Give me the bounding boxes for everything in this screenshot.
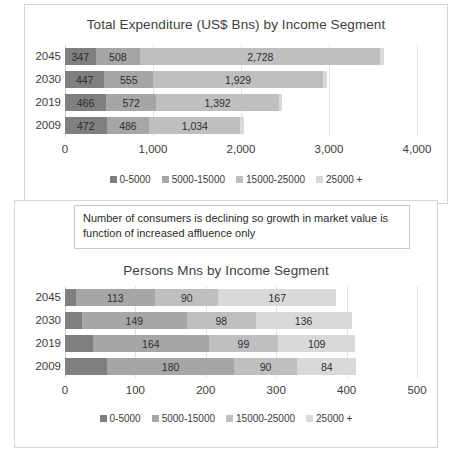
legend-swatch-icon (306, 415, 313, 422)
bar-segment-3: 90 (234, 358, 297, 375)
legend-label: 25000 + (326, 174, 362, 185)
bar-segment-2: 572 (106, 94, 156, 111)
bar-row: 16499109 (65, 335, 355, 352)
legend-item-2[interactable]: 5000-15000 (162, 174, 225, 185)
legend-label: 15000-25000 (246, 174, 305, 185)
legend-label: 5000-15000 (162, 413, 215, 424)
bar-segment-4 (279, 94, 283, 111)
persons-bar-rows: 1139016714998136164991091809084 (65, 286, 417, 378)
legend-swatch-icon (100, 415, 107, 422)
x-tick-label: 100 (126, 384, 145, 396)
category-label-2045: 2045 (19, 289, 61, 306)
bar-value-label: 347 (72, 51, 90, 63)
bar-value-label: 1,034 (182, 120, 208, 132)
legend-item-3[interactable]: 15000-25000 (226, 413, 295, 424)
legend-label: 15000-25000 (236, 413, 295, 424)
bar-value-label: 180 (162, 361, 180, 373)
x-tick-label: 500 (407, 384, 426, 396)
bar-value-label: 98 (215, 315, 227, 327)
expenditure-bar-rows: 3475082,7284475551,9294665721,3924724861… (65, 45, 417, 137)
bar-segment-4 (380, 48, 383, 65)
bar-segment-4: 84 (297, 358, 356, 375)
bar-value-label: 99 (238, 338, 250, 350)
legend-label: 25000 + (316, 413, 352, 424)
legend-label: 5000-15000 (172, 174, 225, 185)
bar-value-label: 90 (260, 361, 272, 373)
x-tick-label: 300 (267, 384, 286, 396)
bar-segment-3: 2,728 (140, 48, 380, 65)
category-label-2009: 2009 (19, 117, 61, 134)
bar-segment-2: 149 (82, 312, 187, 329)
category-label-2009: 2009 (19, 358, 61, 375)
legend-swatch-icon (316, 176, 323, 183)
x-tick-label: 0 (62, 384, 68, 396)
expenditure-chart-title: Total Expenditure (US$ Bns) by Income Se… (25, 17, 447, 32)
bar-segment-1 (65, 289, 76, 306)
bar-segment-4 (323, 71, 327, 88)
bar-segment-3: 98 (187, 312, 256, 329)
bar-row: 4724861,034 (65, 117, 244, 134)
persons-chart-title: Persons Mns by Income Segment (15, 263, 437, 278)
bar-segment-2: 180 (107, 358, 234, 375)
bar-value-label: 1,392 (204, 97, 230, 109)
bar-row: 14998136 (65, 312, 352, 329)
bar-value-label: 113 (107, 292, 124, 304)
x-tick-label: 400 (337, 384, 356, 396)
legend-label: 0-5000 (110, 413, 141, 424)
legend-swatch-icon (110, 176, 117, 183)
bar-segment-1: 466 (65, 94, 106, 111)
expenditure-plot-area: 3475082,7284475551,9294665721,3924724861… (65, 45, 417, 137)
category-label-2045: 2045 (19, 48, 61, 65)
legend-item-1[interactable]: 0-5000 (110, 174, 151, 185)
bar-segment-4: 136 (256, 312, 352, 329)
bar-row: 4475551,929 (65, 71, 327, 88)
bar-value-label: 84 (321, 361, 333, 373)
bar-value-label: 466 (77, 97, 95, 109)
bar-segment-1: 472 (65, 117, 107, 134)
bar-segment-1: 347 (65, 48, 96, 65)
legend-swatch-icon (162, 176, 169, 183)
category-label-2030: 2030 (19, 312, 61, 329)
category-label-2019: 2019 (19, 94, 61, 111)
bar-value-label: 149 (126, 315, 144, 327)
x-tick-label: 0 (62, 143, 68, 155)
bar-value-label: 167 (268, 292, 286, 304)
bar-segment-1 (65, 358, 107, 375)
bar-value-label: 2,728 (247, 51, 273, 63)
bar-value-label: 136 (295, 315, 313, 327)
legend-swatch-icon (152, 415, 159, 422)
bar-segment-2: 555 (104, 71, 153, 88)
bar-row: 1809084 (65, 358, 356, 375)
legend-swatch-icon (236, 176, 243, 183)
legend-item-2[interactable]: 5000-15000 (152, 413, 215, 424)
expenditure-chart-panel: Total Expenditure (US$ Bns) by Income Se… (24, 4, 448, 204)
bar-segment-3: 90 (155, 289, 218, 306)
gridline (417, 45, 418, 137)
gridline (417, 286, 418, 378)
bar-segment-4: 167 (218, 289, 336, 306)
x-tick-label: 1,000 (139, 143, 168, 155)
legend-item-4[interactable]: 25000 + (306, 413, 352, 424)
bar-value-label: 508 (109, 51, 127, 63)
x-tick-label: 200 (196, 384, 215, 396)
bar-value-label: 90 (181, 292, 193, 304)
bar-value-label: 572 (122, 97, 140, 109)
bar-segment-3: 99 (209, 335, 279, 352)
x-tick-label: 4,000 (403, 143, 432, 155)
legend-item-3[interactable]: 15000-25000 (236, 174, 305, 185)
callout-text: Number of consumers is declining so grow… (83, 212, 388, 239)
bar-segment-3: 1,034 (149, 117, 240, 134)
bar-segment-2: 508 (96, 48, 141, 65)
bar-value-label: 1,929 (225, 74, 251, 86)
x-tick-label: 2,000 (227, 143, 256, 155)
bar-segment-3: 1,392 (156, 94, 278, 111)
bar-segment-4: 109 (278, 335, 355, 352)
bar-segment-1 (65, 335, 93, 352)
bar-value-label: 109 (308, 338, 326, 350)
bar-value-label: 164 (142, 338, 160, 350)
bar-row: 3475082,728 (65, 48, 384, 65)
x-tick-label: 3,000 (315, 143, 344, 155)
legend-item-1[interactable]: 0-5000 (100, 413, 141, 424)
bar-value-label: 472 (77, 120, 95, 132)
legend-item-4[interactable]: 25000 + (316, 174, 362, 185)
